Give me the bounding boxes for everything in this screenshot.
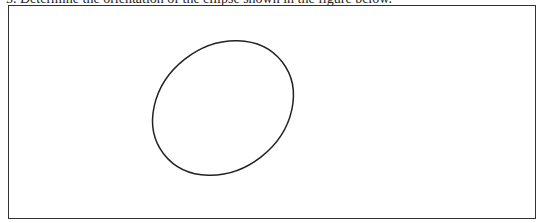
ellipse-figure <box>0 0 543 223</box>
tilted-ellipse <box>126 13 321 203</box>
